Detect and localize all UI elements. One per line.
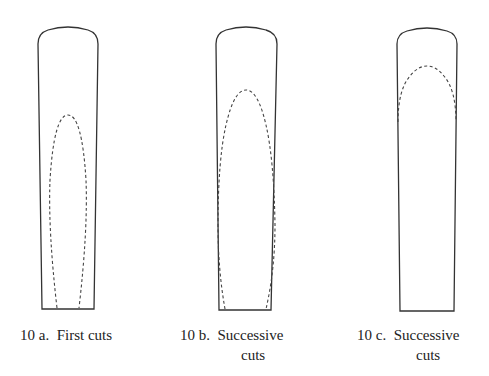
reed-outline bbox=[397, 28, 457, 311]
caption-text: Successive bbox=[218, 327, 284, 343]
reed-outline bbox=[216, 27, 277, 310]
caption-number: 10 c. bbox=[357, 325, 386, 345]
caption-number: 10 b. bbox=[180, 325, 210, 345]
caption-text: Successive bbox=[394, 327, 460, 343]
caption-10b: 10 b. Successive cuts bbox=[180, 325, 283, 365]
first-cut-dashed-outline bbox=[50, 115, 87, 308]
reed-figure-10c bbox=[397, 28, 457, 311]
successive-cut-dashed-outline bbox=[218, 90, 275, 309]
caption-10c: 10 c. Successive cuts bbox=[357, 325, 460, 365]
caption-10a: 10 a. First cuts bbox=[20, 325, 112, 345]
caption-text: First cuts bbox=[57, 327, 112, 343]
successive-cut-dashed-outline bbox=[398, 66, 456, 122]
reed-figure-10a bbox=[38, 27, 98, 309]
caption-text-line2: cuts bbox=[357, 345, 460, 365]
caption-number: 10 a. bbox=[20, 325, 49, 345]
reed-outline bbox=[38, 27, 98, 309]
reed-cut-diagram bbox=[0, 0, 489, 376]
reed-figure-10b bbox=[216, 27, 277, 310]
caption-text-line2: cuts bbox=[180, 345, 283, 365]
